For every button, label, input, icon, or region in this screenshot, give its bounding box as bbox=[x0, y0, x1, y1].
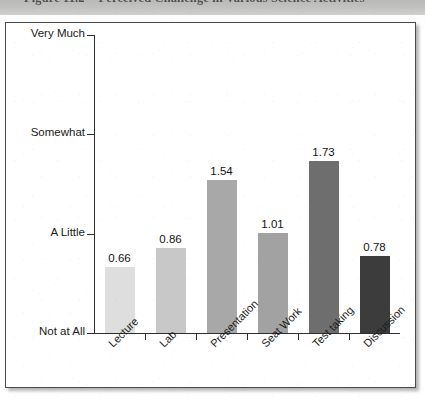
figure-number: Figure 11.2 bbox=[24, 0, 85, 5]
x-axis-tick-mark bbox=[196, 334, 197, 340]
figure-frame: Very MuchSomewhatA LittleNot at All 0.66… bbox=[5, 22, 416, 388]
x-axis-tick-mark bbox=[298, 334, 299, 340]
figure-title-text: Figure 11.2Perceived Challenge in Variou… bbox=[24, 0, 365, 6]
banner-gap-strip bbox=[0, 15, 425, 22]
bar-value-label: 1.01 bbox=[261, 218, 283, 230]
y-axis-tick-mark bbox=[87, 35, 94, 36]
y-axis-tick-mark bbox=[87, 333, 94, 334]
x-axis-tick-mark bbox=[145, 334, 146, 340]
y-axis-tick-mark bbox=[87, 234, 94, 235]
figure-title-banner: Figure 11.2Perceived Challenge in Variou… bbox=[0, 0, 425, 15]
bar: 1.73 bbox=[309, 161, 339, 333]
y-axis-line bbox=[94, 35, 95, 334]
y-axis-tick-label: Not at All bbox=[39, 325, 85, 337]
bar-value-label: 1.73 bbox=[312, 146, 334, 158]
bar-value-label: 1.54 bbox=[210, 165, 232, 177]
y-axis-tick-label: Very Much bbox=[31, 27, 85, 39]
bar-value-label: 0.86 bbox=[159, 233, 181, 245]
x-axis-tick-mark bbox=[349, 334, 350, 340]
x-axis-tick-mark bbox=[247, 334, 248, 340]
y-axis-tick-label: Somewhat bbox=[31, 126, 85, 138]
bar: 1.54 bbox=[207, 180, 237, 333]
bar-value-label: 0.66 bbox=[108, 252, 130, 264]
bar: 0.86 bbox=[156, 248, 186, 333]
bar-chart-plot-area: Very MuchSomewhatA LittleNot at All 0.66… bbox=[6, 23, 415, 387]
y-axis-tick-mark bbox=[87, 134, 94, 135]
figure-caption: Perceived Challenge in Various Science A… bbox=[99, 0, 365, 5]
y-axis-tick-label: A Little bbox=[50, 226, 85, 238]
bar-value-label: 0.78 bbox=[363, 241, 385, 253]
